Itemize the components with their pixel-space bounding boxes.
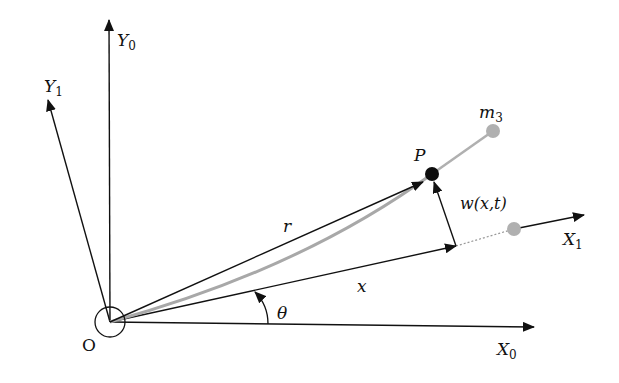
- y0-axis: [109, 20, 110, 322]
- x0-label-text: X: [497, 339, 509, 359]
- x0-axis: [110, 322, 534, 327]
- y1-label-text: Y: [44, 76, 55, 96]
- y1-label-sub: 1: [55, 85, 63, 99]
- theta-arc: [255, 292, 268, 324]
- p-label: P: [414, 147, 425, 164]
- x0-label: X0: [497, 341, 517, 361]
- beam-kinematics-diagram: [0, 0, 619, 383]
- m3-label-text: m: [479, 102, 495, 122]
- x1-label: X1: [563, 231, 583, 251]
- y0-label-sub: 0: [128, 39, 136, 53]
- r-vector: [110, 182, 423, 322]
- x0-label-sub: 0: [509, 348, 517, 362]
- x1-label-sub: 1: [575, 238, 583, 252]
- origin-label: O: [82, 337, 96, 354]
- tip-mass-m3-dot: [486, 124, 500, 138]
- y0-label: Y0: [117, 32, 136, 52]
- m3-label: m3: [479, 104, 503, 124]
- y0-label-text: Y: [117, 30, 128, 50]
- x1-axis: [514, 215, 584, 229]
- w-label: w(x,t): [460, 196, 507, 212]
- beam-extension-to-m3: [432, 131, 493, 174]
- w-vector: [434, 182, 456, 246]
- undeformed-mass-dot: [507, 222, 521, 236]
- y1-axis: [48, 100, 110, 322]
- x1-label-text: X: [563, 229, 575, 249]
- m3-label-sub: 3: [495, 111, 503, 125]
- r-label: r: [283, 218, 291, 235]
- point-p-dot: [425, 167, 439, 181]
- x1-axis-dotted-segment: [456, 229, 514, 246]
- x-label: x: [357, 278, 367, 295]
- y1-label: Y1: [44, 78, 63, 98]
- theta-label: θ: [277, 305, 287, 322]
